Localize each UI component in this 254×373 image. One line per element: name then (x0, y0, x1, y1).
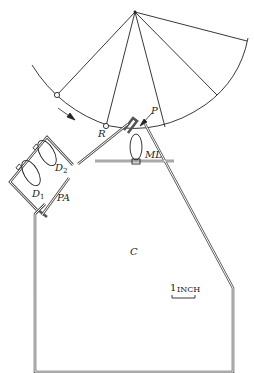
d2-sub: 2 (63, 167, 67, 175)
scale-unit: INCH (177, 286, 200, 294)
label-P: P (151, 106, 158, 116)
apparatus-diagram (0, 0, 254, 373)
label-D2: D2 (55, 163, 68, 175)
source-ring (54, 92, 59, 97)
radial-arm-5 (135, 12, 247, 41)
ml-lamp (130, 134, 142, 160)
rotation-arc (32, 38, 248, 128)
direction-arrow-icon (58, 108, 75, 120)
label-PA: PA (57, 193, 70, 203)
label-D1: D1 (32, 189, 45, 201)
label-R: R (98, 129, 106, 139)
scale-bar (172, 295, 195, 298)
d1-sub: 1 (40, 193, 44, 201)
scale-number: 1 (170, 283, 176, 293)
d1-main: D (32, 188, 40, 199)
label-C: C (130, 247, 138, 257)
radial-arm-2 (106, 12, 135, 126)
radial-arm-1 (57, 12, 135, 95)
label-ML: ML (145, 150, 162, 160)
radial-arm-3 (135, 12, 165, 127)
detector-d1-tube (18, 157, 44, 188)
pivot-point (134, 11, 137, 14)
radial-arm-4 (135, 12, 217, 95)
d2-main: D (55, 162, 63, 173)
